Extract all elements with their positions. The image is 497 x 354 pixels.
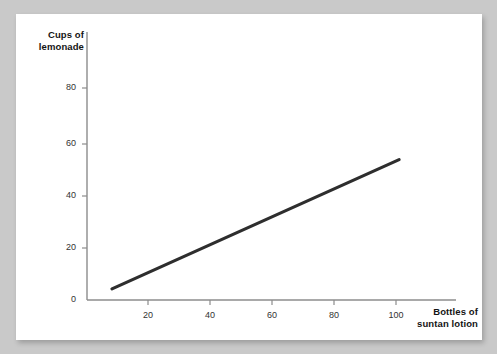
- line-chart-svg: [16, 14, 482, 340]
- x-tick-label-20: 20: [133, 310, 163, 320]
- x-tick-label-80: 80: [319, 310, 349, 320]
- data-series-line: [112, 160, 399, 289]
- x-tick-label-60: 60: [257, 310, 287, 320]
- y-axis-title-line2: lemonade: [16, 41, 84, 53]
- screenshot-root: Cups of lemonade Bottles of suntan lotio…: [0, 0, 497, 354]
- x-axis-title-line1: Bottles of: [346, 306, 478, 318]
- y-tick-label-0: 0: [46, 294, 76, 304]
- chart-plot-area: Cups of lemonade Bottles of suntan lotio…: [16, 14, 482, 340]
- chart-card: Cups of lemonade Bottles of suntan lotio…: [16, 14, 482, 340]
- y-tick-label-60: 60: [46, 138, 76, 148]
- y-tick-label-40: 40: [46, 190, 76, 200]
- x-tick-label-40: 40: [195, 310, 225, 320]
- x-tick-label-100: 100: [381, 310, 411, 320]
- y-axis-title: Cups of lemonade: [16, 29, 84, 52]
- y-axis-title-line1: Cups of: [16, 29, 84, 41]
- y-tick-label-20: 20: [46, 242, 76, 252]
- y-tick-label-80: 80: [46, 82, 76, 92]
- x-axis-title: Bottles of suntan lotion: [346, 306, 478, 329]
- x-axis-title-line2: suntan lotion: [346, 318, 478, 330]
